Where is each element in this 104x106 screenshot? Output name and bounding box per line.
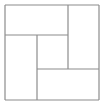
figure-background [0,0,104,106]
diagram-canvas [0,0,104,106]
pinwheel-square-figure [0,0,104,106]
